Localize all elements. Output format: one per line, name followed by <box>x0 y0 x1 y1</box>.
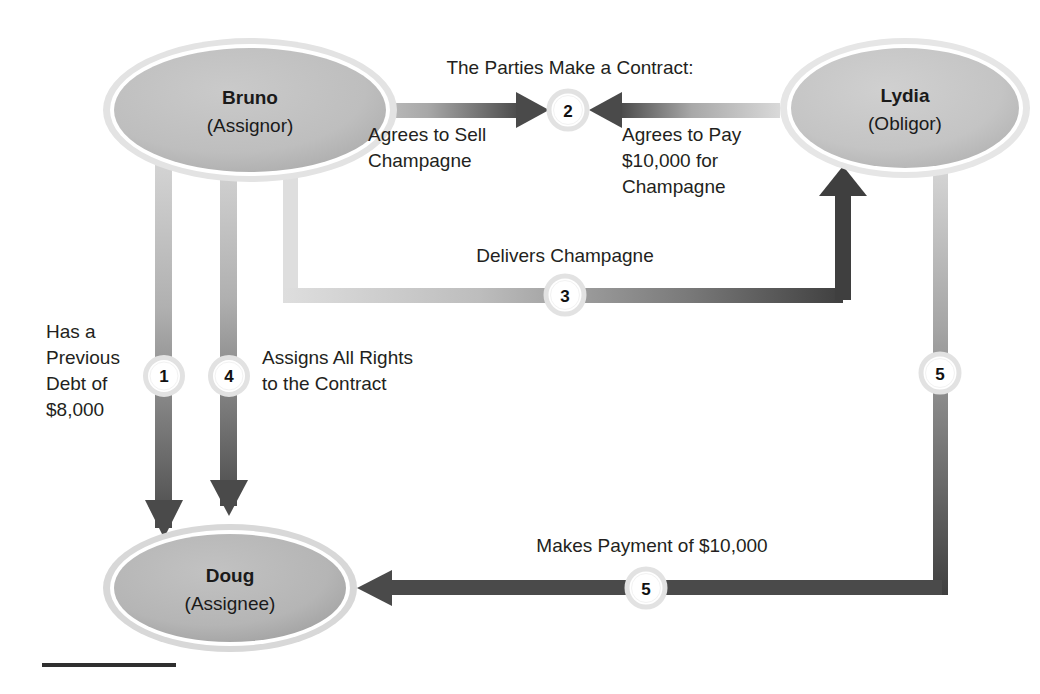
label-assign-line2: to the Contract <box>262 373 387 394</box>
label-payment: Makes Payment of $10,000 <box>536 535 767 556</box>
badge-5-bottom-label: 5 <box>641 580 650 599</box>
label-pay-line3: Champagne <box>622 176 726 197</box>
node-lydia-role: (Obligor) <box>868 113 942 134</box>
badge-5-right: 5 <box>920 353 960 393</box>
node-doug-role: (Assignee) <box>185 593 276 614</box>
node-doug[interactable]: Doug (Assignee) <box>103 524 357 652</box>
label-debt-line3: Debt of <box>46 373 108 394</box>
connector-edge-4 <box>210 128 248 516</box>
contract-assignment-diagram: Bruno (Assignor) Lydia (Obligor) Doug (A… <box>0 0 1040 694</box>
label-delivers: Delivers Champagne <box>476 245 653 266</box>
label-assign-line1: Assigns All Rights <box>262 347 413 368</box>
contract-heading: The Parties Make a Contract: <box>446 57 693 78</box>
label-sell-line2: Champagne <box>368 150 472 171</box>
badge-3-label: 3 <box>560 287 569 306</box>
node-bruno-role: (Assignor) <box>207 115 294 136</box>
label-debt-line2: Previous <box>46 347 120 368</box>
label-debt-line4: $8,000 <box>46 399 104 420</box>
node-lydia-name: Lydia <box>881 85 930 106</box>
label-debt-line1: Has a <box>46 321 96 342</box>
connector-edge-1 <box>145 128 183 538</box>
badge-5-right-label: 5 <box>935 365 944 384</box>
badge-2: 2 <box>548 90 588 130</box>
label-pay-line2: $10,000 for <box>622 150 719 171</box>
badge-3: 3 <box>545 275 585 315</box>
badge-4-label: 4 <box>224 367 234 386</box>
badge-2-label: 2 <box>563 102 572 121</box>
node-lydia[interactable]: Lydia (Obligor) <box>780 38 1030 178</box>
node-doug-name: Doug <box>206 565 255 586</box>
bottom-rule <box>42 663 176 667</box>
badge-1-label: 1 <box>159 367 168 386</box>
connector-edge-2-pay <box>589 92 780 128</box>
node-bruno-name: Bruno <box>222 87 278 108</box>
node-bruno[interactable]: Bruno (Assignor) <box>103 38 397 182</box>
label-sell-line1: Agrees to Sell <box>368 124 486 145</box>
diagram-canvas: Bruno (Assignor) Lydia (Obligor) Doug (A… <box>0 0 1040 694</box>
badge-5-bottom: 5 <box>626 568 666 608</box>
badge-1: 1 <box>145 357 183 395</box>
badge-4: 4 <box>210 357 248 395</box>
label-pay-line1: Agrees to Pay <box>622 124 742 145</box>
